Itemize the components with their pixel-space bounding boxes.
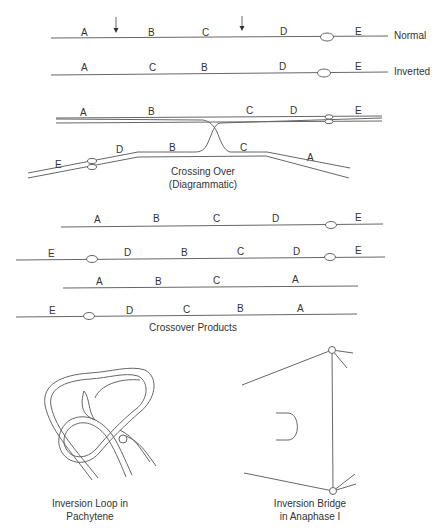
gene-label: B	[169, 142, 176, 153]
gene-label: D	[290, 105, 297, 116]
centromere-icon	[329, 347, 336, 354]
gene-label: D	[124, 247, 131, 258]
inversion-bridge-diagram: Inversion Bridge in Anaphase I	[242, 347, 356, 523]
centromere-icon	[119, 435, 127, 443]
gene-label: B	[148, 106, 155, 117]
gene-label: D	[280, 26, 287, 37]
gene-label: C	[183, 304, 190, 315]
inverted-chromosome: A C B D E Inverted	[51, 61, 430, 77]
gene-label: C	[240, 142, 247, 153]
crossover-products: A B C D E E D B C D E A B C A E D C B A …	[16, 212, 385, 333]
centromere-icon	[87, 256, 98, 263]
gene-label: B	[153, 213, 160, 224]
gene-label: E	[55, 159, 62, 170]
centromere-icon	[330, 488, 337, 495]
gene-label: A	[81, 62, 88, 73]
loop-subcaption: Pachytene	[66, 511, 114, 522]
centromere-icon	[325, 254, 336, 261]
acentric-fragment	[276, 413, 297, 440]
gene-label: A	[94, 214, 101, 225]
crossing-over-diagram: A B C D E E D B C A Crossing Over (Diagr…	[28, 105, 382, 190]
bridge-caption: Inversion Bridge	[274, 498, 347, 509]
normal-label: Normal	[394, 30, 426, 41]
gene-label: C	[202, 27, 209, 38]
gene-label: C	[213, 275, 220, 286]
gene-label: E	[355, 245, 362, 256]
gene-label: E	[355, 26, 362, 37]
bridge-subcaption: in Anaphase I	[280, 511, 341, 522]
centromere-icon	[88, 159, 97, 164]
gene-label: E	[355, 61, 362, 72]
gene-label: E	[355, 212, 362, 223]
gene-label: B	[155, 276, 162, 287]
gene-label: A	[292, 274, 299, 285]
gene-label: B	[181, 247, 188, 258]
centromere-icon	[325, 115, 333, 119]
gene-label: E	[49, 305, 56, 316]
gene-label: A	[297, 303, 304, 314]
crossing-over-caption: Crossing Over	[171, 166, 236, 177]
inversion-diagram: A B C D E Normal A C B D E Inverted A B …	[0, 0, 447, 531]
gene-label: D	[116, 144, 123, 155]
gene-label: B	[237, 303, 244, 314]
gene-label: A	[96, 276, 103, 287]
gene-label: E	[48, 248, 55, 259]
gene-label: E	[355, 105, 362, 116]
gene-label: C	[237, 246, 244, 257]
gene-label: D	[126, 305, 133, 316]
centromere-icon	[326, 222, 337, 229]
centromere-icon	[321, 33, 334, 41]
crossing-over-subcaption: (Diagrammatic)	[169, 179, 237, 190]
gene-label: C	[213, 213, 220, 224]
centromere-icon	[84, 313, 95, 320]
inverted-label: Inverted	[394, 66, 430, 77]
gene-label: D	[279, 61, 286, 72]
centromere-icon	[318, 69, 331, 77]
gene-label: C	[149, 62, 156, 73]
gene-label: B	[148, 27, 155, 38]
loop-caption: Inversion Loop in	[52, 498, 128, 509]
normal-chromosome: A B C D E Normal	[51, 16, 426, 41]
gene-label: B	[201, 62, 208, 73]
gene-label: D	[293, 246, 300, 257]
gene-label: A	[81, 27, 88, 38]
inversion-loop-diagram: Inversion Loop in Pachytene	[45, 368, 156, 522]
gene-label: A	[80, 107, 87, 118]
gene-label: A	[307, 152, 314, 163]
gene-label: C	[246, 105, 253, 116]
crossover-products-caption: Crossover Products	[149, 322, 237, 333]
gene-label: D	[272, 213, 279, 224]
